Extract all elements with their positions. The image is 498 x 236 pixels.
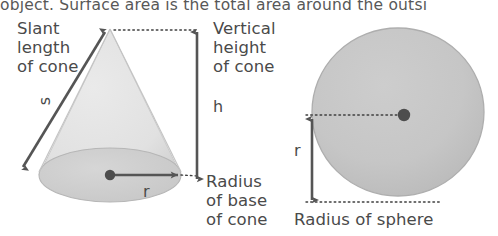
- cone-centre-dot: [105, 170, 115, 180]
- cone-radius-dotted-line: [181, 175, 198, 176]
- cone-radius-symbol-r: r: [143, 183, 150, 201]
- vertical-height-label: Vertical height of cone: [213, 20, 276, 76]
- header-body-text: object. Surface area is the total area a…: [0, 0, 427, 15]
- diagram-canvas: object. Surface area is the total area a…: [0, 0, 498, 236]
- radius-of-sphere-caption: Radius of sphere: [294, 211, 434, 230]
- sphere-circle: [312, 28, 484, 196]
- slant-length-label: Slant length of cone: [17, 20, 79, 76]
- sphere-centre-dot: [398, 109, 410, 121]
- sphere-radius-symbol-r: r: [294, 142, 301, 160]
- sphere-shape: [312, 28, 484, 196]
- radius-of-base-label: Radius of base of cone: [206, 173, 268, 229]
- height-symbol-h: h: [213, 98, 223, 116]
- slant-symbol-s: s: [36, 97, 54, 105]
